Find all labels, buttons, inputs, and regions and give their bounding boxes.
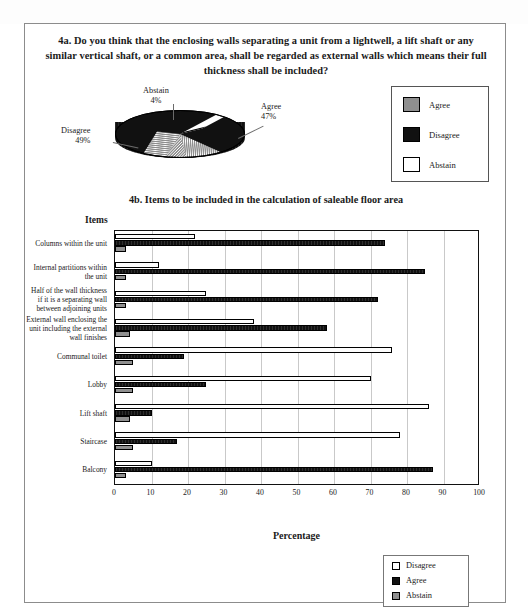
category-label: External wall enclosing the unit includi…	[25, 315, 107, 342]
pie-legend-label-disagree: Disagree	[429, 130, 460, 140]
pie-3d-body	[115, 110, 245, 166]
bar-group	[115, 429, 478, 457]
x-tick-label-10: 10	[147, 488, 155, 497]
bar-group	[115, 373, 478, 401]
pie-chart-4a: Abstain 4% Agree 47% Disagree 49%	[33, 86, 363, 204]
category-label: Balcony	[25, 465, 107, 474]
bar-group	[115, 344, 478, 372]
bar-disagree	[115, 404, 429, 409]
question-4a-title: 4a. Do you think that the enclosing wall…	[43, 34, 489, 78]
category-label: Communal toilet	[25, 352, 107, 361]
bar-chart-category-labels: Columns within the unitInternal partitio…	[25, 230, 111, 485]
category-label: Columns within the unit	[25, 239, 107, 248]
figure-frame: 4a. Do you think that the enclosing wall…	[24, 23, 506, 603]
bar-agree	[115, 240, 385, 245]
bar-abstain	[115, 246, 126, 251]
bar-legend-label-agree: Agree	[406, 576, 426, 585]
question-4b-title: 4b. Items to be included in the calculat…	[43, 194, 489, 205]
pie-legend-item-agree: Agree	[403, 97, 450, 112]
bar-agree	[115, 382, 206, 387]
pie-label-agree: Agree 47%	[261, 102, 281, 122]
x-tick-label-80: 80	[402, 488, 410, 497]
disagree-swatch-icon	[392, 562, 400, 570]
bar-agree	[115, 269, 425, 274]
pie-label-abstain-name: Abstain	[143, 86, 169, 96]
bar-chart-4b: Columns within the unitInternal partitio…	[25, 230, 507, 530]
category-label: Internal partitions within the unit	[25, 263, 107, 281]
bar-disagree	[115, 319, 254, 324]
bar-agree	[115, 467, 433, 472]
page-root: 4a. Do you think that the enclosing wall…	[0, 0, 528, 616]
bar-legend: Disagree Agree Abstain	[383, 555, 469, 607]
pie-legend-item-disagree: Disagree	[403, 127, 460, 142]
bar-disagree	[115, 262, 159, 267]
pie-label-agree-value: 47%	[261, 112, 281, 122]
leader-line-abstain	[173, 104, 174, 120]
pie-label-abstain-value: 4%	[143, 96, 169, 106]
bar-agree	[115, 297, 378, 302]
bar-abstain	[115, 473, 126, 478]
bar-agree	[115, 325, 327, 330]
pie-label-disagree: Disagree 49%	[61, 126, 91, 146]
bar-abstain	[115, 416, 130, 421]
bar-legend-label-disagree: Disagree	[406, 561, 436, 570]
bar-disagree	[115, 347, 392, 352]
abstain-swatch-icon	[392, 592, 400, 600]
x-tick-label-40: 40	[256, 488, 264, 497]
bar-group	[115, 401, 478, 429]
category-label: Lift shaft	[25, 409, 107, 418]
x-tick-label-50: 50	[293, 488, 301, 497]
bar-chart-x-ticks: 0102030405060708090100	[114, 488, 479, 504]
bar-abstain	[115, 388, 133, 393]
x-tick-label-100: 100	[473, 488, 485, 497]
pie-label-disagree-name: Disagree	[61, 126, 91, 136]
agree-swatch-icon	[392, 577, 400, 585]
agree-swatch-icon	[403, 97, 420, 112]
bar-abstain	[115, 331, 130, 336]
x-tick-label-30: 30	[220, 488, 228, 497]
bar-abstain	[115, 303, 126, 308]
category-label: Staircase	[25, 437, 107, 446]
bar-abstain	[115, 445, 133, 450]
x-tick-label-90: 90	[439, 488, 447, 497]
bar-groups	[115, 231, 478, 484]
bar-group	[115, 231, 478, 259]
bar-legend-item-abstain: Abstain	[392, 591, 432, 600]
bar-group	[115, 316, 478, 344]
x-tick-label-70: 70	[366, 488, 374, 497]
pie-legend: Agree Disagree Abstain	[391, 86, 489, 182]
bar-group	[115, 458, 478, 486]
bar-disagree	[115, 234, 195, 239]
bar-disagree	[115, 432, 400, 437]
x-tick-label-0: 0	[112, 488, 116, 497]
bar-legend-label-abstain: Abstain	[406, 591, 432, 600]
items-axis-label: Items	[85, 215, 108, 225]
page-top-bleed	[0, 0, 528, 24]
bar-abstain	[115, 275, 126, 280]
pie-label-abstain: Abstain 4%	[143, 86, 169, 106]
pie-top-face	[115, 110, 245, 158]
bar-legend-item-agree: Agree	[392, 576, 426, 585]
x-tick-label-60: 60	[329, 488, 337, 497]
bar-legend-item-disagree: Disagree	[392, 561, 436, 570]
abstain-swatch-icon	[403, 157, 420, 172]
bar-abstain	[115, 360, 133, 365]
bar-disagree	[115, 461, 152, 466]
bar-disagree	[115, 376, 371, 381]
pie-legend-label-agree: Agree	[429, 100, 450, 110]
pie-label-agree-name: Agree	[261, 102, 281, 112]
pie-legend-item-abstain: Abstain	[403, 157, 456, 172]
bar-agree	[115, 354, 184, 359]
bar-group	[115, 259, 478, 287]
pie-legend-label-abstain: Abstain	[429, 160, 456, 170]
pie-label-disagree-value: 49%	[61, 136, 91, 146]
percentage-axis-label: Percentage	[114, 530, 479, 541]
bar-group	[115, 288, 478, 316]
disagree-swatch-icon	[403, 127, 420, 142]
bar-agree	[115, 410, 152, 415]
bar-agree	[115, 439, 177, 444]
bar-disagree	[115, 291, 206, 296]
pie-slice-abstain	[180, 110, 245, 134]
category-label: Half of the wall thickness if it is a se…	[25, 286, 107, 313]
bar-chart-plot-area	[114, 230, 479, 485]
